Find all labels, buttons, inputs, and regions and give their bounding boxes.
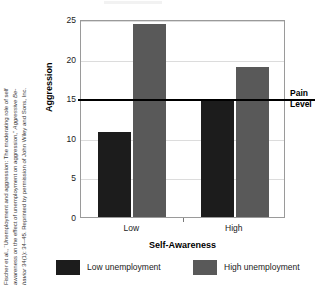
- plot-area: [80, 20, 285, 218]
- y-axis-tick-label: 0: [52, 214, 76, 223]
- gridline: [81, 21, 284, 22]
- y-axis-tick-labels: 0510152025: [46, 4, 76, 256]
- bar-chart: Aggression 0510152025 Pain Level LowHigh…: [46, 4, 315, 256]
- legend-label: Low unemployment: [87, 263, 161, 272]
- source-credit-line-2: awareness on the effect of unemployment …: [11, 89, 18, 285]
- x-axis-category-label: High: [183, 224, 286, 233]
- source-credit-line-2-text: awareness on the effect of unemployment …: [11, 129, 18, 285]
- source-credit-line-3-text: 34(1): 34–45. Reprinted by permission of…: [20, 88, 27, 269]
- source-credit-journal-name: Aggressive Be-: [11, 89, 18, 130]
- x-axis-title: Self-Awareness: [80, 240, 285, 250]
- legend-item-low-unemployment: Low unemployment: [56, 259, 161, 275]
- bar: [98, 132, 131, 217]
- y-axis-tick-label: 25: [52, 16, 76, 25]
- y-axis-tick-label: 20: [52, 56, 76, 65]
- legend-label: High unemployment: [224, 263, 300, 272]
- gridline: [81, 61, 284, 62]
- bar: [236, 67, 269, 217]
- legend-swatch-icon: [56, 260, 80, 275]
- bar: [133, 24, 166, 217]
- y-axis-tick-label: 10: [52, 135, 76, 144]
- y-axis-tick-label: 15: [52, 95, 76, 104]
- pain-level-label-line-1: Pain: [290, 88, 315, 99]
- bar: [201, 99, 234, 217]
- source-credit-line-3: havior 34(1): 34–45. Reprinted by permis…: [20, 88, 27, 285]
- chart-legend: Low unemployment High unemployment: [46, 259, 315, 281]
- y-axis-tick-label: 5: [52, 174, 76, 183]
- source-credit-journal-cont: havior: [20, 269, 27, 285]
- pain-level-line: [78, 99, 315, 101]
- source-credit: Fischer et al., “Unemployment and aggres…: [0, 0, 46, 289]
- legend-item-high-unemployment: High unemployment: [193, 259, 300, 275]
- x-axis-category-label: Low: [80, 224, 183, 233]
- source-credit-line-1: Fischer et al., “Unemployment and aggres…: [2, 88, 9, 285]
- legend-swatch-icon: [193, 260, 217, 275]
- x-axis-tick-mark: [183, 218, 184, 222]
